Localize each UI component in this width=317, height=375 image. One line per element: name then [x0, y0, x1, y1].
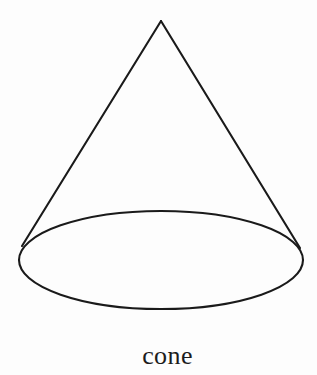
cone-figure: cone	[0, 0, 317, 375]
cone-diagram	[0, 0, 317, 375]
right-slant-line	[161, 21, 300, 248]
figure-caption: cone	[0, 341, 317, 371]
base-ellipse	[19, 211, 303, 309]
